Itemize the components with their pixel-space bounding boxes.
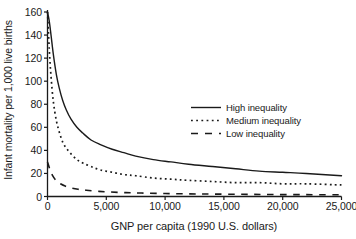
legend-item-high-inequality: High inequality: [191, 101, 311, 114]
legend-swatch-dotted: [191, 115, 221, 126]
legend-swatch-solid: [191, 102, 221, 113]
x-tick-label: 20,000: [267, 200, 299, 212]
chart-figure: Infant mortality per 1,000 live births 0…: [0, 0, 356, 239]
x-tick-label: 5,000: [93, 200, 119, 212]
legend-item-low-inequality: Low inequality: [191, 127, 311, 140]
x-tick-label: 10,000: [149, 200, 181, 212]
legend-label: High inequality: [226, 102, 287, 113]
x-axis-title: GNP per capita (1990 U.S. dollars): [47, 220, 341, 232]
legend-item-medium-inequality: Medium inequality: [191, 114, 311, 127]
chart-legend: High inequality Medium inequality Low in…: [191, 101, 311, 140]
x-axis-tick-labels: 05,00010,00015,00020,00025,000: [0, 200, 356, 214]
x-tick-label: 25,000: [326, 200, 356, 212]
x-tick-label: 15,000: [208, 200, 240, 212]
legend-label: Low inequality: [226, 128, 285, 139]
legend-swatch-dashed: [191, 128, 221, 139]
legend-label: Medium inequality: [226, 115, 301, 126]
series-curve: [48, 12, 342, 185]
x-tick-label: 0: [45, 200, 51, 212]
series-curve: [48, 12, 342, 176]
